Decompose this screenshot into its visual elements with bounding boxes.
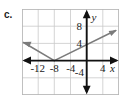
y-tick-label-4: 4	[77, 37, 83, 49]
y-axis-label: y	[91, 11, 97, 23]
coordinate-plane: -12 -8 -4 4 8 4 -4 y x	[22, 9, 119, 95]
y-tick-label-8: 8	[77, 20, 83, 32]
graph-figure: c.	[0, 0, 125, 100]
part-label: c.	[4, 10, 12, 20]
x-tick-label-neg12: -12	[30, 62, 45, 74]
plot-svg: -12 -8 -4 4 8 4 -4 y x	[22, 9, 119, 95]
x-axis-label: x	[109, 62, 115, 74]
x-tick-label-pos4: 4	[100, 62, 106, 74]
x-tick-label-neg8: -8	[50, 62, 60, 74]
y-tick-label-neg4: -4	[75, 66, 85, 78]
